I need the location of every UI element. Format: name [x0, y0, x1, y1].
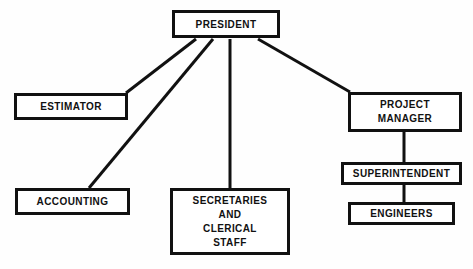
- org-node-superintendent[interactable]: SUPERINTENDENT: [341, 162, 462, 185]
- edge-president-estimator: [126, 39, 196, 93]
- edge-president-project-manager: [258, 39, 350, 92]
- org-node-accounting-label: ACCOUNTING: [37, 195, 109, 208]
- org-node-president[interactable]: PRESIDENT: [172, 10, 280, 38]
- org-node-secretaries-label-line2: AND: [219, 208, 242, 222]
- org-node-estimator-label: ESTIMATOR: [40, 100, 102, 113]
- org-chart: PRESIDENT ESTIMATOR ACCOUNTING SECRETARI…: [0, 0, 473, 269]
- org-node-project-manager-label-line2: MANAGER: [378, 112, 432, 126]
- org-node-engineers-label: ENGINEERS: [370, 207, 433, 220]
- org-node-secretaries[interactable]: SECRETARIES AND CLERICAL STAFF: [170, 188, 290, 255]
- org-node-superintendent-label: SUPERINTENDENT: [353, 167, 450, 180]
- org-node-secretaries-label-line4: STAFF: [213, 236, 246, 250]
- org-node-engineers[interactable]: ENGINEERS: [348, 202, 455, 225]
- org-node-secretaries-label-line3: CLERICAL: [203, 222, 257, 236]
- org-node-estimator[interactable]: ESTIMATOR: [14, 93, 128, 120]
- org-node-secretaries-label-line1: SECRETARIES: [193, 194, 268, 208]
- org-node-accounting[interactable]: ACCOUNTING: [15, 188, 130, 215]
- org-node-president-label: PRESIDENT: [196, 18, 257, 31]
- org-node-project-manager[interactable]: PROJECT MANAGER: [348, 92, 462, 132]
- org-node-project-manager-label-line1: PROJECT: [380, 98, 430, 112]
